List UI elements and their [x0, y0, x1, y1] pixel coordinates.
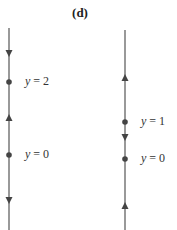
- equilibrium-label-left-y2: y = 2: [25, 74, 49, 89]
- variable: y: [141, 151, 146, 165]
- equilibrium-point: [6, 79, 12, 85]
- value: 0: [159, 151, 165, 165]
- arrow-down-icon: [6, 50, 13, 57]
- variable: y: [25, 147, 30, 161]
- value: 1: [159, 114, 165, 128]
- arrow-up-icon: [6, 114, 13, 121]
- arrow-up-icon: [122, 202, 129, 209]
- variable: y: [25, 74, 30, 88]
- arrow-down-icon: [122, 134, 129, 141]
- equilibrium-point: [122, 156, 128, 162]
- arrow-down-icon: [6, 197, 13, 204]
- equilibrium-label-left-y0: y = 0: [25, 147, 49, 162]
- value: 2: [43, 74, 49, 88]
- variable: y: [141, 114, 146, 128]
- equilibrium-point: [122, 119, 128, 125]
- equilibrium-label-right-y1: y = 1: [141, 114, 165, 129]
- phase-line-right: [122, 30, 129, 230]
- equilibrium-point: [6, 152, 12, 158]
- value: 0: [43, 147, 49, 161]
- phase-line-left: [6, 28, 13, 230]
- arrow-up-icon: [122, 74, 129, 81]
- equilibrium-label-right-y0: y = 0: [141, 151, 165, 166]
